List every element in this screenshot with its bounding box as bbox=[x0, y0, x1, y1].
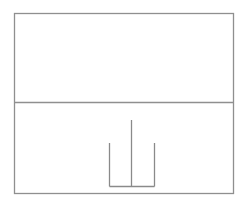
background bbox=[0, 0, 246, 208]
diagram-canvas bbox=[0, 0, 246, 208]
line-diagram bbox=[0, 0, 246, 208]
